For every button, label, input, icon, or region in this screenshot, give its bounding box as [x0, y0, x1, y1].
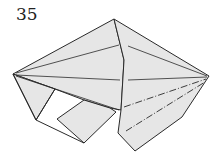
- right-panel: [114, 19, 209, 151]
- origami-diagram: [0, 0, 222, 159]
